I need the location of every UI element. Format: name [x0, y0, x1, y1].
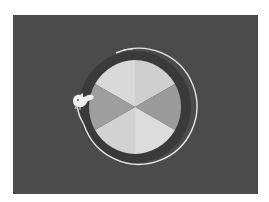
wheel[interactable]: [89, 60, 181, 154]
game-scene[interactable]: [13, 15, 258, 194]
footer-caption: [60, 195, 210, 202]
orbit-arc-top: [123, 49, 133, 50]
game-canvas[interactable]: [13, 15, 258, 194]
